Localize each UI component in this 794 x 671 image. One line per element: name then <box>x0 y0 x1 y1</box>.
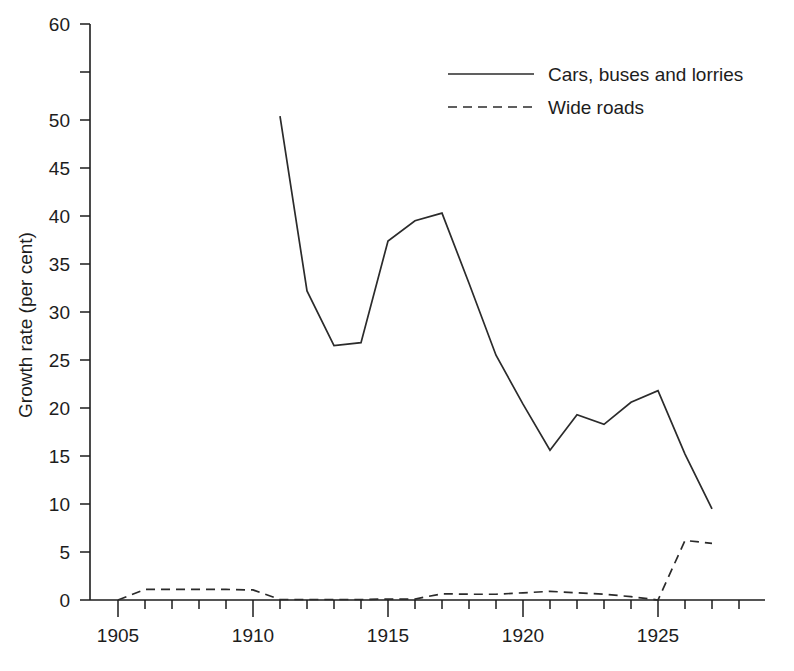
y-axis-tick-marks <box>80 24 90 600</box>
y-tick-label: 15 <box>49 446 70 467</box>
series-line-dashed <box>118 540 712 600</box>
series-line-solid <box>280 116 712 509</box>
x-tick-label: 1910 <box>232 625 274 646</box>
x-tick-label: 1905 <box>97 625 139 646</box>
chart-container: Growth rate (per cent) 05101520253035404… <box>0 0 794 671</box>
y-tick-label: 25 <box>49 350 70 371</box>
y-axis-tick-labels: 0510152025303540455060 <box>49 14 70 611</box>
y-tick-label: 0 <box>59 590 70 611</box>
x-tick-label: 1915 <box>367 625 409 646</box>
legend-label: Wide roads <box>548 97 644 118</box>
y-tick-label: 5 <box>59 542 70 563</box>
y-tick-label: 35 <box>49 254 70 275</box>
chart-plot-area: Growth rate (per cent) 05101520253035404… <box>0 0 794 671</box>
x-tick-label: 1925 <box>637 625 679 646</box>
y-tick-label: 10 <box>49 494 70 515</box>
y-tick-label: 20 <box>49 398 70 419</box>
y-tick-label: 60 <box>49 14 70 35</box>
data-series-group <box>118 116 712 600</box>
y-tick-label: 50 <box>49 110 70 131</box>
legend-label: Cars, buses and lorries <box>548 64 743 85</box>
x-tick-label: 1920 <box>502 625 544 646</box>
y-axis-title: Growth rate (per cent) <box>15 232 36 418</box>
y-tick-label: 45 <box>49 158 70 179</box>
y-tick-label: 30 <box>49 302 70 323</box>
x-axis-tick-labels: 19051910191519201925 <box>97 625 679 646</box>
y-tick-label: 40 <box>49 206 70 227</box>
x-axis-tick-marks <box>118 600 739 617</box>
chart-legend: Cars, buses and lorriesWide roads <box>448 64 743 118</box>
